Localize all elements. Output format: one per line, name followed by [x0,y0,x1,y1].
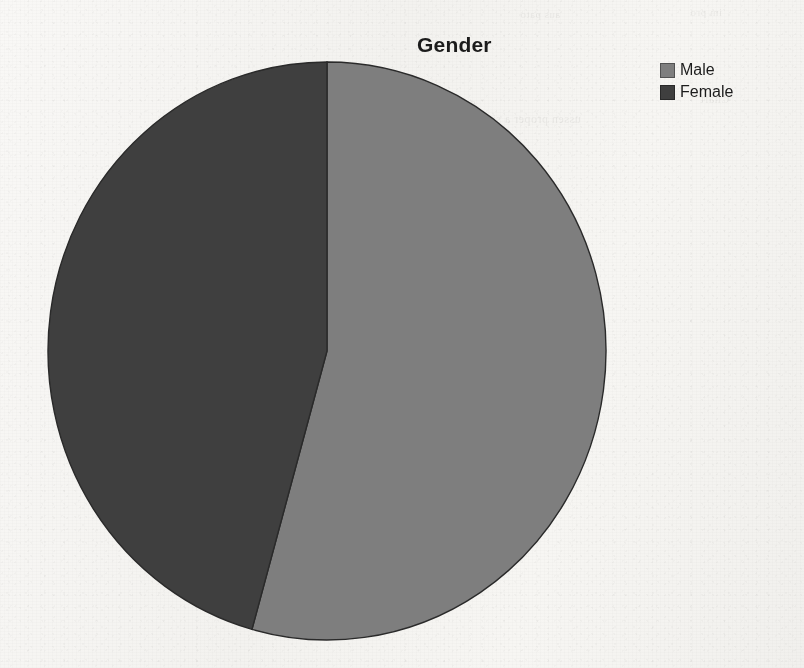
chart-title: Gender [417,33,492,57]
legend-label-female: Female [680,84,733,100]
legend-item-female[interactable]: Female [660,81,733,103]
pie-slice-group: Male 54.4%Female 45.6% [48,62,606,640]
legend-swatch-male [660,63,675,78]
pie-chart: Male 54.4%Female 45.6% Gender Male Femal… [0,0,804,668]
legend-label-male: Male [680,62,715,78]
legend-swatch-female [660,85,675,100]
chart-legend: Male Female [660,59,733,103]
legend-item-male[interactable]: Male [660,59,733,81]
